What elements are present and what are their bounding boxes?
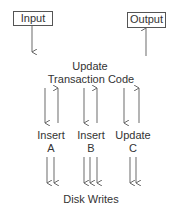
update-c-letter: C (129, 142, 137, 155)
disk-writes-label: Disk Writes (63, 193, 118, 206)
insert-a-label: Insert (37, 129, 65, 142)
arrows-layer (0, 0, 177, 213)
update-label: Update (72, 60, 107, 73)
insert-b-label: Insert (77, 129, 105, 142)
insert-a-letter: A (47, 142, 54, 155)
input-node: Input (13, 11, 53, 26)
transaction-code-label: Transaction Code (48, 73, 134, 86)
diagram: Input Output Update Transaction Code Ins… (0, 0, 177, 213)
insert-b-letter: B (87, 142, 94, 155)
update-c-label: Update (115, 129, 150, 142)
output-node: Output (127, 12, 166, 28)
